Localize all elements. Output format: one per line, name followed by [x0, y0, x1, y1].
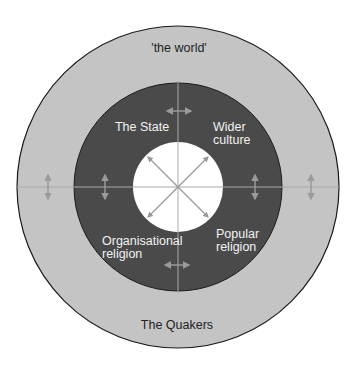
label-organisational: Organisational [102, 234, 183, 248]
label-the-quakers: The Quakers [141, 318, 213, 332]
quakers-diagram: 'the world' The Quakers The State Wider … [0, 0, 355, 367]
label-the-state: The State [115, 120, 169, 134]
label-the-world: 'the world' [151, 41, 207, 55]
label-popular-religion: religion [216, 240, 256, 254]
label-popular: Popular [216, 227, 259, 241]
label-wider: Wider [213, 120, 246, 134]
label-culture: culture [213, 133, 251, 147]
label-organisational-religion: religion [102, 247, 142, 261]
